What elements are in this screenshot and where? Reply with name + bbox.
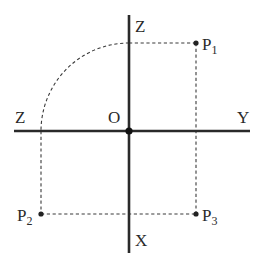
label-p3: P3 (202, 206, 217, 228)
points (38, 40, 198, 216)
label-x-bottom: X (135, 231, 147, 250)
construction-lines (41, 43, 196, 214)
label-z-left: Z (15, 108, 25, 127)
projection-diagram: Z X Z Y O P1 P2 P3 (0, 0, 265, 265)
point-p3 (193, 211, 198, 216)
origin-point (125, 127, 132, 134)
label-z-top: Z (135, 17, 145, 36)
label-origin: O (108, 108, 120, 127)
label-p1: P1 (202, 35, 217, 57)
label-p2: P2 (17, 206, 32, 228)
point-p1 (193, 40, 198, 45)
label-y-right: Y (237, 108, 249, 127)
point-p2 (38, 211, 43, 216)
